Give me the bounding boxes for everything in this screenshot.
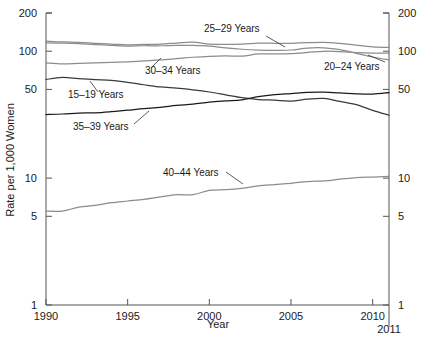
leader-35-39: [134, 111, 149, 124]
y-tick-label-left-10: 10: [25, 172, 37, 184]
y-tick-label-group-left: 151050100200: [19, 7, 37, 311]
leader-40-44: [226, 172, 243, 184]
x-axis-end-label: 2011: [377, 323, 401, 335]
chart-container: 151050100200 151050100200 19901995200020…: [0, 0, 435, 338]
x-axis-title: Year: [207, 318, 230, 330]
series-line-40-44-years: [46, 176, 389, 211]
y-tick-label-group-right: 151050100200: [398, 7, 416, 311]
x-tick-label-2010: 2010: [360, 310, 384, 322]
y-tick-label-right-100: 100: [398, 45, 416, 57]
y-tick-label-right-5: 5: [398, 210, 404, 222]
series-annotation-25-29-: 25–29 Years: [204, 23, 260, 34]
y-axis-title: Rate per 1,000 Women: [4, 103, 16, 217]
y-tick-label-right-200: 200: [398, 7, 416, 19]
x-tick-label-1995: 1995: [115, 310, 139, 322]
y-tick-label-right-50: 50: [398, 83, 410, 95]
y-tick-label-left-200: 200: [19, 7, 37, 19]
leader-25-29: [266, 36, 285, 47]
fertility-rate-line-chart: 151050100200 151050100200 19901995200020…: [0, 0, 435, 338]
y-tick-group-right: [383, 13, 389, 305]
chart-axes: [46, 13, 389, 305]
x-tick-label-2005: 2005: [279, 310, 303, 322]
y-tick-group-left: [46, 13, 52, 305]
series-annotation-30-34-: 30–34 Years: [145, 65, 201, 76]
y-tick-label-right-1: 1: [398, 299, 404, 311]
y-tick-label-left-100: 100: [19, 45, 37, 57]
series-annotation-20-24-: 20–24 Years: [324, 61, 380, 72]
series-annotation-35-39-: 35–39 Years: [73, 121, 129, 132]
series-annotation-15-19-: 15–19 Years: [68, 89, 124, 100]
y-tick-label-left-50: 50: [25, 83, 37, 95]
y-tick-label-right-10: 10: [398, 172, 410, 184]
x-tick-label-1990: 1990: [34, 310, 58, 322]
series-annotation-40-44-: 40–44 Years: [163, 167, 219, 178]
y-tick-label-left-5: 5: [31, 210, 37, 222]
